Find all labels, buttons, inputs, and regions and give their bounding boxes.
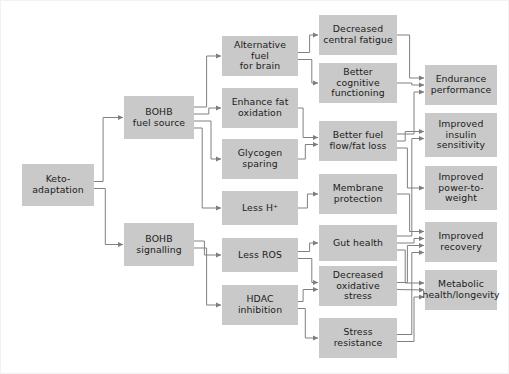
edge-glycogen-sparing-to-better-fuel-flow-fat-loss	[298, 145, 318, 160]
edge-decreased-oxidative-stress-to-metabolic-health-longevity	[397, 290, 424, 291]
node-label-metabolic-health-longevity: Metabolic health/longevity	[422, 279, 499, 301]
edge-bohb-signalling-to-hdac-inhibition	[194, 248, 221, 305]
node-label-membrane-protection: Membrane protection	[333, 183, 384, 205]
edge-gut-health-to-metabolic-health-longevity	[397, 250, 424, 283]
edge-gut-health-to-improved-insulin-sensitivity	[397, 139, 424, 237]
edge-keto-adaptation-to-bohb-fuel-source	[94, 118, 123, 182]
node-hdac-inhibition[interactable]: HDAC inhibition	[222, 285, 298, 325]
node-label-alternative-fuel-for-brain: Alternative fuel for brain	[224, 40, 296, 73]
node-stress-resistance[interactable]: Stress resistance	[319, 318, 397, 358]
node-label-stress-resistance: Stress resistance	[334, 327, 383, 349]
node-improved-insulin-sensitivity[interactable]: Improved insulin sensitivity	[425, 113, 497, 157]
node-bohb-signalling[interactable]: BOHB signalling	[124, 223, 194, 266]
edge-better-fuel-flow-fat-loss-to-improved-power-to-weight	[397, 148, 424, 188]
node-less-ros[interactable]: Less ROS	[222, 238, 298, 272]
edge-better-fuel-flow-fat-loss-to-endurance-performance	[397, 92, 424, 134]
node-label-gut-health: Gut health	[333, 238, 383, 249]
edge-hdac-inhibition-to-decreased-oxidative-stress	[298, 290, 318, 302]
edge-enhance-fat-oxidation-to-better-fuel-flow-fat-loss	[298, 108, 318, 138]
node-label-glycogen-sparing: Glycogen sparing	[238, 148, 282, 170]
node-label-enhance-fat-oxidation: Enhance fat oxidation	[232, 97, 289, 119]
edge-alternative-fuel-for-brain-to-better-cognitive-functioning	[298, 60, 318, 84]
node-metabolic-health-longevity[interactable]: Metabolic health/longevity	[425, 270, 497, 310]
node-decreased-oxidative-stress[interactable]: Decreased oxidative stress	[319, 266, 397, 306]
node-improved-power-to-weight[interactable]: Improved power-to- weight	[425, 166, 497, 210]
node-label-improved-insulin-sensitivity: Improved insulin sensitivity	[437, 119, 485, 152]
node-label-less-h-plus: Less H⁺	[242, 203, 278, 214]
node-label-improved-power-to-weight: Improved power-to- weight	[438, 172, 483, 205]
node-label-less-ros: Less ROS	[238, 250, 282, 261]
edge-stress-resistance-to-improved-recovery	[397, 253, 424, 335]
edge-alternative-fuel-for-brain-to-decreased-central-fatigue	[298, 35, 318, 53]
node-label-hdac-inhibition: HDAC inhibition	[238, 294, 282, 316]
node-gut-health[interactable]: Gut health	[319, 225, 397, 261]
node-bohb-fuel-source[interactable]: BOHB fuel source	[124, 96, 194, 139]
node-label-bohb-fuel-source: BOHB fuel source	[133, 107, 185, 129]
node-alternative-fuel-for-brain[interactable]: Alternative fuel for brain	[222, 36, 298, 76]
node-label-decreased-oxidative-stress: Decreased oxidative stress	[321, 270, 395, 303]
flowchart-canvas: Keto- adaptationBOHB fuel sourceBOHB sig…	[0, 0, 509, 374]
edge-gut-health-to-improved-recovery	[397, 239, 424, 244]
edge-better-cognitive-functioning-to-endurance-performance	[397, 83, 424, 85]
node-glycogen-sparing[interactable]: Glycogen sparing	[222, 139, 298, 179]
edge-bohb-fuel-source-to-alternative-fuel-for-brain	[194, 56, 221, 107]
node-decreased-central-fatigue[interactable]: Decreased central fatigue	[319, 15, 397, 55]
node-enhance-fat-oxidation[interactable]: Enhance fat oxidation	[222, 88, 298, 128]
edge-better-fuel-flow-fat-loss-to-improved-insulin-sensitivity	[397, 132, 424, 142]
edge-membrane-protection-to-improved-recovery	[397, 194, 424, 232]
edge-stress-resistance-to-metabolic-health-longevity	[397, 297, 424, 342]
edge-bohb-fuel-source-to-enhance-fat-oxidation	[194, 108, 221, 114]
node-better-cognitive-functioning[interactable]: Better cognitive functioning	[319, 63, 397, 103]
node-label-better-cognitive-functioning: Better cognitive functioning	[321, 67, 395, 100]
edge-less-ros-to-gut-health	[298, 243, 318, 252]
node-endurance-performance[interactable]: Endurance performance	[425, 65, 497, 105]
edge-hdac-inhibition-to-stress-resistance	[298, 309, 318, 339]
edge-bohb-fuel-source-to-less-h-plus	[194, 128, 221, 208]
node-membrane-protection[interactable]: Membrane protection	[319, 174, 397, 214]
node-less-h-plus[interactable]: Less H⁺	[222, 191, 298, 225]
edge-bohb-fuel-source-to-glycogen-sparing	[194, 121, 221, 159]
node-label-improved-recovery: Improved recovery	[439, 231, 484, 253]
node-label-better-fuel-flow-fat-loss: Better fuel flow/fat loss	[329, 130, 386, 152]
edge-keto-adaptation-to-bohb-signalling	[94, 189, 123, 245]
node-better-fuel-flow-fat-loss[interactable]: Better fuel flow/fat loss	[319, 121, 397, 161]
node-label-decreased-central-fatigue: Decreased central fatigue	[323, 24, 393, 46]
node-label-keto-adaptation: Keto- adaptation	[32, 174, 83, 196]
edge-less-h-plus-to-membrane-protection	[298, 194, 318, 208]
node-label-bohb-signalling: BOHB signalling	[136, 234, 181, 256]
edge-less-ros-to-decreased-oxidative-stress	[298, 259, 318, 283]
edge-decreased-oxidative-stress-to-improved-recovery	[397, 246, 424, 283]
node-improved-recovery[interactable]: Improved recovery	[425, 222, 497, 262]
node-keto-adaptation[interactable]: Keto- adaptation	[22, 164, 94, 206]
edge-decreased-central-fatigue-to-endurance-performance	[397, 35, 424, 78]
edge-bohb-signalling-to-less-ros	[194, 241, 221, 255]
node-label-endurance-performance: Endurance performance	[431, 74, 492, 96]
